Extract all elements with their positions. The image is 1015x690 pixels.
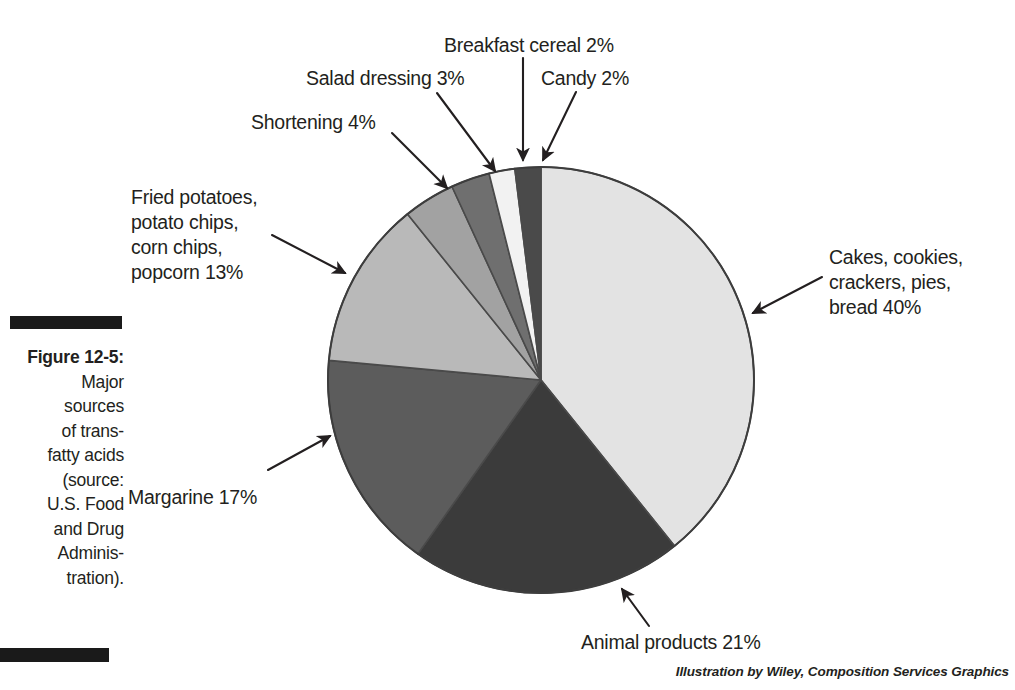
label-line: bread 40%	[829, 295, 963, 320]
pie-slice-group: Cakes, cookies, crackers, pies, bread 40…	[328, 167, 754, 593]
label-line: Salad dressing 3%	[306, 66, 464, 91]
figure-container: Figure 12-5:Majorsourcesof trans-fatty a…	[0, 0, 1015, 690]
label-line: Margarine 17%	[128, 485, 257, 510]
label-margarine: Margarine 17%	[128, 485, 257, 510]
label-line: Breakfast cereal 2%	[444, 33, 614, 58]
leader-margarine	[268, 436, 330, 470]
label-line: corn chips,	[131, 235, 257, 260]
label-line: Animal products 21%	[581, 630, 761, 655]
label-line: potato chips,	[131, 210, 257, 235]
illustration-credit: Illustration by Wiley, Composition Servi…	[676, 664, 1009, 679]
label-breakfast-cereal: Breakfast cereal 2%	[444, 33, 614, 58]
leader-cakes	[753, 277, 822, 313]
label-line: popcorn 13%	[131, 260, 257, 285]
leader-fried-potatoes	[272, 235, 345, 273]
leader-shortening	[392, 133, 447, 188]
label-candy: Candy 2%	[541, 66, 629, 91]
pie-chart: Cakes, cookies, crackers, pies, bread 40…	[0, 0, 1015, 690]
leader-animal-products	[622, 589, 649, 626]
label-line: crackers, pies,	[829, 270, 963, 295]
label-animal-products: Animal products 21%	[581, 630, 761, 655]
label-shortening: Shortening 4%	[251, 110, 376, 135]
label-line: Candy 2%	[541, 66, 629, 91]
label-line: Shortening 4%	[251, 110, 376, 135]
label-fried-potatoes: Fried potatoes,potato chips,corn chips,p…	[131, 185, 257, 285]
label-salad-dressing: Salad dressing 3%	[306, 66, 464, 91]
label-line: Cakes, cookies,	[829, 245, 963, 270]
leader-salad-dressing	[437, 93, 495, 171]
label-cakes: Cakes, cookies,crackers, pies,bread 40%	[829, 245, 963, 320]
leader-candy	[543, 92, 576, 160]
label-line: Fried potatoes,	[131, 185, 257, 210]
pie-chart-svg: Cakes, cookies, crackers, pies, bread 40…	[0, 0, 1015, 690]
